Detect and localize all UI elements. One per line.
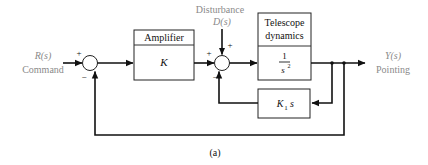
inner-feedback-path-out <box>219 72 258 104</box>
sum1-plus-sign: + <box>76 48 81 58</box>
output-pointing-label: Pointing <box>376 64 410 75</box>
telescope-title-line1: Telescope <box>265 17 305 28</box>
summing-junction-1 <box>83 56 98 71</box>
figure-caption: (a) <box>209 147 220 159</box>
amplifier-title: Amplifier <box>144 32 184 43</box>
feedback-gain-variable: s <box>290 98 294 109</box>
inner-feedback-path-in <box>312 63 332 103</box>
amplifier-gain: K <box>159 56 168 68</box>
sum1-minus-sign: − <box>81 72 86 82</box>
disturbance-signal-label: D(s) <box>212 16 231 28</box>
output-signal-label: Y(s) <box>385 50 402 62</box>
summing-junction-2 <box>215 56 230 71</box>
block-diagram: R(s) Command + − Amplifier K Disturbance… <box>0 0 428 165</box>
telescope-tf-exponent: 2 <box>288 63 291 69</box>
sum2-plus-left-sign: + <box>206 48 211 58</box>
rate-feedback-block: K 1 s <box>258 89 310 118</box>
telescope-title-line2: dynamics <box>265 30 303 41</box>
telescope-tf-denominator: s <box>281 65 285 75</box>
telescope-dynamics-block: Telescope dynamics 1 s 2 <box>258 13 311 80</box>
input-command-label: Command <box>22 64 64 75</box>
telescope-tf-numerator: 1 <box>282 51 287 61</box>
sum2-minus-sign: − <box>212 72 217 82</box>
sum2-plus-top-sign: + <box>227 40 232 50</box>
feedback-gain-subscript: 1 <box>284 104 288 112</box>
disturbance-label: Disturbance <box>196 4 245 15</box>
amplifier-block: Amplifier K <box>134 30 194 80</box>
input-signal-label: R(s) <box>34 50 52 62</box>
